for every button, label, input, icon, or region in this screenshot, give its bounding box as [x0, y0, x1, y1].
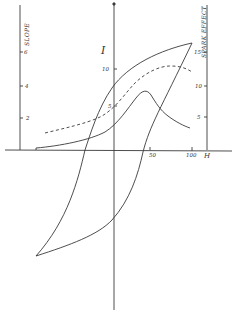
- i-axis-label: I: [100, 44, 106, 57]
- slope-curve: [36, 91, 190, 150]
- slope-tick-label-4: 4: [24, 83, 29, 89]
- h-tick-label-50: 50: [149, 152, 156, 158]
- h-tick-label-100: 100: [186, 152, 197, 158]
- spark-axis-label: SPARK EFFECT: [200, 5, 207, 58]
- h-axis-label: H: [203, 152, 211, 160]
- spark-effect-curve: [45, 66, 192, 133]
- spark-tick-label-15: 15: [194, 49, 201, 55]
- hysteresis-figure: I 10 5 SLOPE 6 4 2 SPARK EFFECT 15 10 5 …: [0, 0, 234, 315]
- h-axis-line: [5, 150, 232, 151]
- spark-tick-label-10: 10: [195, 83, 202, 89]
- slope-tick-label-6: 6: [24, 49, 28, 55]
- spark-tick-label-5: 5: [197, 114, 201, 120]
- i-tick-label-5: 5: [108, 103, 112, 109]
- slope-axis-label: SLOPE: [23, 23, 30, 46]
- i-axis-top-dot: [113, 3, 115, 5]
- i-tick-label-10: 10: [102, 66, 109, 72]
- slope-tick-label-2: 2: [25, 115, 30, 121]
